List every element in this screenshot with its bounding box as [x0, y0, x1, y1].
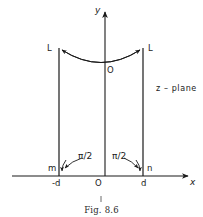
- left-corner-label: m: [48, 164, 56, 173]
- y-axis-label: y: [95, 6, 100, 15]
- right-ray-label: L: [148, 44, 153, 53]
- left-tick-label: -d: [52, 179, 60, 188]
- arc-label: O: [107, 66, 114, 75]
- right-tick-label: d: [141, 179, 146, 188]
- left-ray-label: L: [47, 44, 52, 53]
- x-axis-label: x: [190, 178, 195, 187]
- figure-caption: Fig. 8.6: [0, 205, 203, 215]
- left-angle-label: π/2: [78, 152, 92, 161]
- figure-container: y x O O L L m n -d d π/2 π/2 z – plane F…: [0, 0, 203, 217]
- plane-label: z – plane: [156, 85, 197, 93]
- origin-label: O: [95, 179, 102, 188]
- contour-arc: [62, 50, 140, 63]
- right-angle-arrow: [124, 158, 140, 171]
- right-corner-label: n: [147, 164, 152, 173]
- right-angle-label: π/2: [112, 152, 126, 161]
